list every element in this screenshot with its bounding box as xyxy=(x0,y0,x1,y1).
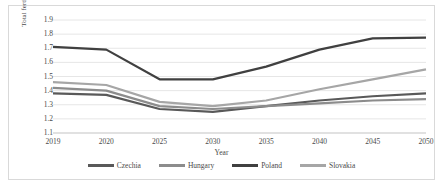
x-axis-title: Year xyxy=(9,148,434,157)
legend-label: Hungary xyxy=(188,161,214,170)
legend-label: Poland xyxy=(261,161,282,170)
legend-swatch-icon xyxy=(232,164,258,167)
legend-label: Slovakia xyxy=(329,161,355,170)
legend-item-czechia[interactable]: Czechia xyxy=(88,161,141,170)
chart-legend: CzechiaHungaryPolandSlovakia xyxy=(9,161,434,170)
x-tick-label: 2040 xyxy=(299,137,339,146)
x-tick-label: 2050 xyxy=(406,137,443,146)
legend-swatch-icon xyxy=(300,164,326,167)
legend-label: Czechia xyxy=(117,161,141,170)
x-tick-label: 2045 xyxy=(353,137,393,146)
legend-item-poland[interactable]: Poland xyxy=(232,161,282,170)
x-tick-label: 2030 xyxy=(193,137,233,146)
legend-swatch-icon xyxy=(88,164,114,167)
x-tick-label: 2020 xyxy=(86,137,126,146)
chart-container: Total fertility rate 1.11.21.31.41.51.61… xyxy=(8,5,435,180)
legend-swatch-icon xyxy=(159,164,185,167)
x-tick-label: 2019 xyxy=(33,137,73,146)
x-tick-label: 2025 xyxy=(140,137,180,146)
plot-area: Total fertility rate 1.11.21.31.41.51.61… xyxy=(9,6,434,179)
x-tick-label: 2035 xyxy=(246,137,286,146)
legend-item-hungary[interactable]: Hungary xyxy=(159,161,214,170)
legend-item-slovakia[interactable]: Slovakia xyxy=(300,161,355,170)
